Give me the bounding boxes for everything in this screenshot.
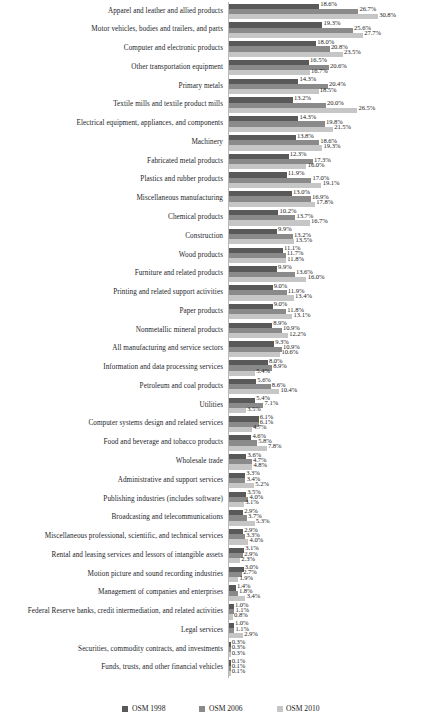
- bar-line: 3.4%: [229, 596, 442, 601]
- bar-value-label: 2.9%: [243, 631, 258, 638]
- legend-swatch-icon-osm-1998: [122, 706, 128, 712]
- chart-category-row: Furniture and related products9.9%13.6%1…: [0, 265, 442, 284]
- bar-value-label: 5.3%: [255, 518, 270, 525]
- bar-line: 4.0%: [229, 539, 442, 544]
- chart-category-row: Rental and leasing services and lessors …: [0, 546, 442, 565]
- bar-value-label: 13.1%: [292, 312, 310, 319]
- category-bars: 10.2%13.7%16.7%: [228, 208, 442, 227]
- bar-line: 18.5%: [229, 89, 442, 94]
- bar-value-label: 18.5%: [319, 87, 337, 94]
- category-label: Computer systems design and related serv…: [0, 415, 228, 434]
- bar-value-label: 5.2%: [254, 481, 269, 488]
- category-bars: 9.9%13.2%13.5%: [228, 227, 442, 246]
- bar-segment: [229, 427, 252, 432]
- chart-category-row: Primary metals14.3%20.4%18.5%: [0, 77, 442, 96]
- category-label: Furniture and related products: [0, 265, 228, 284]
- bar-value-label: 20.6%: [329, 63, 347, 70]
- bar-value-label: 13.4%: [294, 293, 312, 300]
- category-label: Fabricated metal products: [0, 152, 228, 171]
- chart-category-row: Electrical equipment, appliances, and co…: [0, 115, 442, 134]
- bar-value-label: 3.4%: [245, 593, 260, 600]
- bar-value-label: 16.7%: [310, 218, 328, 225]
- bar-line: 19.1%: [229, 183, 442, 188]
- legend-label-osm-1998: OSM 1998: [132, 704, 166, 713]
- bar-segment: [229, 14, 378, 19]
- category-bars: 1.0%1.1%0.8%: [228, 603, 442, 622]
- category-label: Apparel and leather and allied products: [0, 2, 228, 21]
- bar-line: 5.4%: [229, 371, 442, 376]
- bar-value-label: 0.3%: [231, 650, 246, 657]
- category-bars: 2.9%3.3%4.0%: [228, 527, 442, 546]
- bar-segment: [229, 145, 322, 150]
- chart-category-row: Information and data processing services…: [0, 359, 442, 378]
- category-label: Securities, commodity contracts, and inv…: [0, 640, 228, 659]
- bar-value-label: 16.5%: [309, 57, 327, 64]
- legend-swatch-icon-osm-2006: [199, 706, 205, 712]
- bar-line: 19.3%: [229, 145, 442, 150]
- bar-value-label: 13.0%: [292, 189, 310, 196]
- bar-line: 12.2%: [229, 333, 442, 338]
- category-bars: 16.5%20.6%16.7%: [228, 58, 442, 77]
- bar-line: 13.5%: [229, 239, 442, 244]
- bar-value-label: 11.8%: [286, 256, 304, 263]
- bar-segment: [229, 220, 310, 225]
- category-label: Primary metals: [0, 77, 228, 96]
- bar-line: 4.8%: [229, 464, 442, 469]
- bar-value-label: 14.3%: [298, 76, 316, 83]
- bar-value-label: 3.5%: [246, 406, 261, 413]
- category-label: Rental and leasing services and lessors …: [0, 546, 228, 565]
- bar-line: 13.1%: [229, 314, 442, 319]
- chart-category-row: Petroleum and coal products5.6%8.6%10.4%: [0, 377, 442, 396]
- category-label: Motor vehicles, bodies and trailers, and…: [0, 21, 228, 40]
- category-label: Broadcasting and telecommunications: [0, 509, 228, 528]
- chart-category-row: Chemical products10.2%13.7%16.7%: [0, 208, 442, 227]
- bar-value-label: 9.0%: [273, 301, 288, 308]
- category-label: Information and data processing services: [0, 359, 228, 378]
- chart-category-row: Food and beverage and tobacco products4.…: [0, 434, 442, 453]
- chart-category-row: Utilities5.4%7.1%3.5%: [0, 396, 442, 415]
- category-label: Plastics and rubber products: [0, 171, 228, 190]
- chart-category-row: Securities, commodity contracts, and inv…: [0, 640, 442, 659]
- chart-category-row: Nonmetallic mineral products8.9%10.9%12.…: [0, 321, 442, 340]
- bar-value-label: 13.2%: [293, 95, 311, 102]
- bar-line: 23.5%: [229, 52, 442, 57]
- chart-category-row: Textile mills and textile product mills1…: [0, 96, 442, 115]
- category-label: Publishing industries (includes software…: [0, 490, 228, 509]
- bar-value-label: 0.1%: [231, 668, 246, 675]
- category-bars: 13.0%16.9%17.8%: [228, 190, 442, 209]
- category-label: Paper products: [0, 302, 228, 321]
- category-label: Funds, trusts, and other financial vehic…: [0, 659, 228, 678]
- category-label: Printing and related support activities: [0, 283, 228, 302]
- chart-category-row: Broadcasting and telecommunications2.9%3…: [0, 509, 442, 528]
- chart-category-row: Miscellaneous manufacturing13.0%16.9%17.…: [0, 190, 442, 209]
- category-label: Chemical products: [0, 208, 228, 227]
- bar-value-label: 10.6%: [280, 349, 298, 356]
- bar-value-label: 11.9%: [287, 170, 305, 177]
- category-bars: 6.1%6.1%4.7%: [228, 415, 442, 434]
- bar-value-label: 10.2%: [278, 208, 296, 215]
- bar-line: 7.8%: [229, 446, 442, 451]
- bar-value-label: 9.9%: [277, 226, 292, 233]
- category-label: Textile mills and textile product mills: [0, 96, 228, 115]
- legend-item-osm-1998: OSM 1998: [122, 704, 165, 713]
- bar-line: 16.7%: [229, 70, 442, 75]
- chart-category-row: Wood products11.1%11.7%11.8%: [0, 246, 442, 265]
- legend-item-osm-2010: OSM 2010: [277, 704, 320, 713]
- chart-category-row: Motion picture and sound recording indus…: [0, 565, 442, 584]
- bar-value-label: 26.7%: [358, 6, 376, 13]
- bar-line: 2.9%: [229, 633, 442, 638]
- category-bars: 4.6%5.8%7.8%: [228, 434, 442, 453]
- bar-value-label: 23.5%: [343, 49, 361, 56]
- category-bars: 13.2%20.0%26.5%: [228, 96, 442, 115]
- bar-segment: [229, 70, 310, 75]
- category-bars: 3.3%3.4%5.2%: [228, 471, 442, 490]
- category-bars: 9.0%11.8%13.1%: [228, 302, 442, 321]
- category-label: Federal Reserve banks, credit intermedia…: [0, 603, 228, 622]
- bar-value-label: 1.9%: [238, 575, 253, 582]
- chart-category-row: Federal Reserve banks, credit intermedia…: [0, 603, 442, 622]
- bar-line: 17.8%: [229, 202, 442, 207]
- bar-line: 10.6%: [229, 352, 442, 357]
- chart-category-row: All manufacturing and service sectors9.3…: [0, 340, 442, 359]
- category-label: Electrical equipment, appliances, and co…: [0, 115, 228, 134]
- bar-line: 13.4%: [229, 295, 442, 300]
